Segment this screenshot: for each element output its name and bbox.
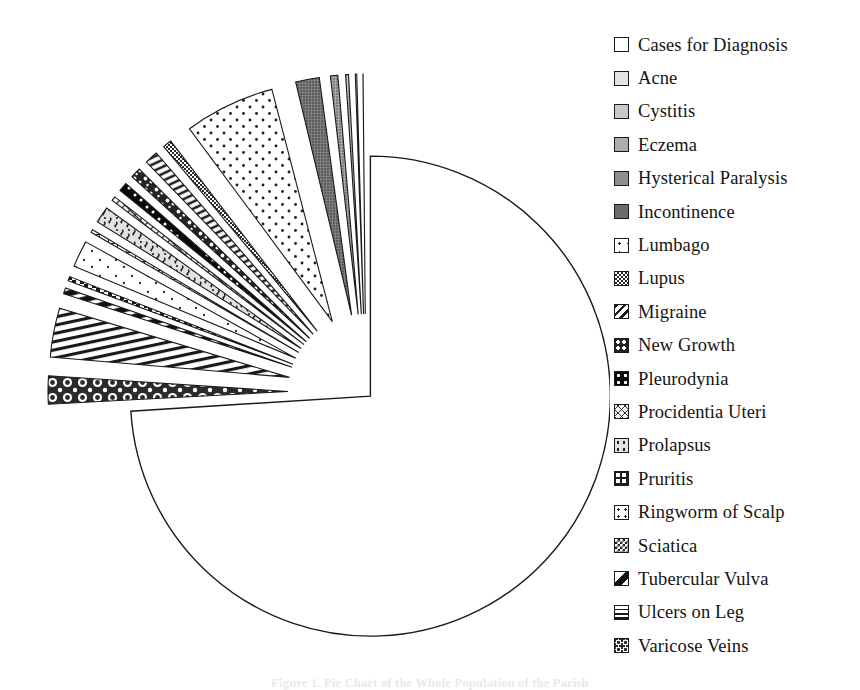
legend-item-label: Varicose Veins: [638, 636, 749, 656]
legend-swatch-icon: [614, 438, 629, 453]
legend-item-label: Lupus: [638, 268, 685, 288]
pie-slice[interactable]: [363, 74, 365, 314]
legend-item[interactable]: Tubercular Vulva: [614, 562, 858, 595]
legend-item[interactable]: Incontinence: [614, 195, 858, 228]
legend-item-label: Cases for Diagnosis: [638, 35, 788, 55]
legend-item[interactable]: Cystitis: [614, 95, 858, 128]
legend-swatch-icon: [614, 471, 629, 486]
legend-swatch-icon: [614, 104, 629, 119]
legend-item-label: Procidentia Uteri: [638, 402, 767, 422]
legend-item[interactable]: Pleurodynia: [614, 362, 858, 395]
legend-item[interactable]: Cases for Diagnosis: [614, 28, 858, 61]
legend-swatch-icon: [614, 538, 629, 553]
legend-item-label: Tubercular Vulva: [638, 569, 769, 589]
legend-item-label: Eczema: [638, 135, 697, 155]
pie-slices-group: [48, 74, 610, 636]
legend-item-label: Sciatica: [638, 536, 697, 556]
legend-item[interactable]: Ulcers on Leg: [614, 596, 858, 629]
legend-item-label: Pleurodynia: [638, 369, 729, 389]
legend-item[interactable]: Acne: [614, 61, 858, 94]
chart-legend: Cases for DiagnosisAcneCystitisEczemaHys…: [614, 28, 858, 662]
legend-swatch-icon: [614, 338, 629, 353]
legend-item-label: Migraine: [638, 302, 707, 322]
legend-item-label: Ulcers on Leg: [638, 602, 744, 622]
legend-swatch-icon: [614, 204, 629, 219]
figure-pie-chart: Cases for DiagnosisAcneCystitisEczemaHys…: [0, 0, 860, 690]
legend-swatch-icon: [614, 571, 629, 586]
legend-swatch-icon: [614, 605, 629, 620]
pie-chart-plot: [0, 0, 610, 660]
legend-item-label: Acne: [638, 68, 677, 88]
legend-item-label: Lumbago: [638, 235, 710, 255]
legend-item[interactable]: Varicose Veins: [614, 629, 858, 662]
legend-item-label: Incontinence: [638, 202, 735, 222]
legend-item[interactable]: New Growth: [614, 329, 858, 362]
legend-swatch-icon: [614, 37, 629, 52]
legend-swatch-icon: [614, 71, 629, 86]
legend-item-label: New Growth: [638, 335, 735, 355]
legend-item[interactable]: Hysterical Paralysis: [614, 162, 858, 195]
legend-swatch-icon: [614, 137, 629, 152]
legend-item[interactable]: Pruritis: [614, 462, 858, 495]
legend-swatch-icon: [614, 271, 629, 286]
legend-swatch-icon: [614, 638, 629, 653]
legend-swatch-icon: [614, 371, 629, 386]
legend-swatch-icon: [614, 304, 629, 319]
legend-item-label: Hysterical Paralysis: [638, 168, 787, 188]
legend-item[interactable]: Migraine: [614, 295, 858, 328]
pie-slice[interactable]: [48, 376, 288, 405]
legend-item[interactable]: Procidentia Uteri: [614, 395, 858, 428]
legend-item[interactable]: Ringworm of Scalp: [614, 495, 858, 528]
legend-item-label: Pruritis: [638, 469, 693, 489]
legend-swatch-icon: [614, 238, 629, 253]
legend-item[interactable]: Eczema: [614, 128, 858, 161]
legend-item[interactable]: Prolapsus: [614, 429, 858, 462]
legend-item[interactable]: Lupus: [614, 262, 858, 295]
legend-swatch-icon: [614, 505, 629, 520]
legend-item-label: Ringworm of Scalp: [638, 502, 785, 522]
legend-item[interactable]: Sciatica: [614, 529, 858, 562]
legend-item-label: Prolapsus: [638, 435, 711, 455]
legend-swatch-icon: [614, 404, 629, 419]
legend-item[interactable]: Lumbago: [614, 228, 858, 261]
pie-svg: [0, 0, 610, 660]
figure-caption: Figure 1. Pie Chart of the Whole Populat…: [0, 676, 860, 690]
legend-swatch-icon: [614, 171, 629, 186]
legend-item-label: Cystitis: [638, 101, 695, 121]
